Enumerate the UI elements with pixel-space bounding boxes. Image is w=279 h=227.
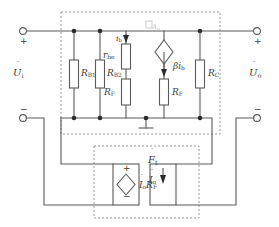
output-voltage-label: ˙ Uo xyxy=(249,68,261,79)
beta-ib-label: βib xyxy=(173,62,185,72)
output-return-wire xyxy=(176,118,254,205)
input-plus-terminal[interactable] xyxy=(20,28,27,35)
rc-label: RC xyxy=(208,69,219,79)
input-plus-sign: + xyxy=(20,37,28,46)
input-return-wire xyxy=(26,118,113,205)
rb2-label: RB2 xyxy=(107,69,122,79)
resistor-rbe xyxy=(122,44,131,69)
feedback-source-minus-sign: − xyxy=(123,192,131,201)
output-sense-wire xyxy=(176,118,212,164)
input-minus-terminal[interactable] xyxy=(20,115,27,122)
rb1-label: RB1 xyxy=(81,69,96,79)
resistor-rf-left xyxy=(122,79,131,105)
rbe-label: rbe xyxy=(103,51,115,61)
input-minus-sign: − xyxy=(20,105,28,114)
resistor-rb1 xyxy=(70,60,79,88)
io-current-label: ˙ Io xyxy=(149,176,156,186)
feedback-block-label: ˙ Ft xyxy=(148,155,158,166)
resistor-rc xyxy=(196,60,205,88)
output-minus-terminal[interactable] xyxy=(254,115,261,122)
rf-left-label: RF xyxy=(104,88,115,98)
output-plus-sign: + xyxy=(254,37,262,46)
source-marker-label: Ag xyxy=(152,24,160,32)
ib-current-label: ib xyxy=(116,35,122,44)
ib-arrowhead xyxy=(123,35,129,43)
output-minus-sign: − xyxy=(254,105,262,114)
beta-ib-arrowhead xyxy=(161,69,167,77)
output-plus-terminal[interactable] xyxy=(254,28,261,35)
input-voltage-label: ˙ Ui xyxy=(13,68,24,79)
resistor-rf-right xyxy=(160,79,169,105)
resistor-rb2 xyxy=(96,60,105,88)
feedback-source-plus-sign: + xyxy=(123,164,131,173)
io-arrowhead xyxy=(160,175,166,184)
feedback-injection-wire xyxy=(61,118,113,164)
circuit-diagram xyxy=(0,0,279,227)
rf-right-label: RF xyxy=(172,88,183,98)
